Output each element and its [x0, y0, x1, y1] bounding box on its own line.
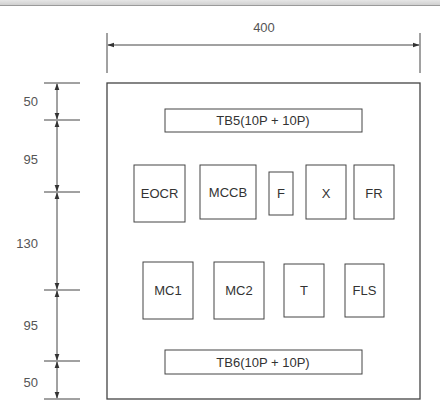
width-label: 400 — [253, 20, 275, 35]
component-t: T — [284, 264, 324, 317]
dim-label-5: 50 — [24, 375, 38, 390]
component-fr: FR — [354, 165, 394, 219]
svg-text:FR: FR — [365, 186, 382, 201]
svg-text:FLS: FLS — [353, 283, 377, 298]
dim-label-3: 130 — [16, 236, 38, 251]
svg-text:MC1: MC1 — [154, 283, 181, 298]
terminal-block-tb5: TB5(10P + 10P) — [165, 109, 362, 132]
svg-text:MC2: MC2 — [225, 283, 252, 298]
tb6-label: TB6(10P + 10P) — [216, 355, 309, 370]
panel-layout-diagram: 400 50 95 130 95 50 TB5(10P + 10P) EOCR … — [0, 0, 440, 418]
svg-text:X: X — [322, 186, 331, 201]
height-dimension-chain — [44, 83, 80, 399]
svg-text:F: F — [277, 186, 285, 201]
dim-label-1: 50 — [24, 94, 38, 109]
width-dimension: 400 — [107, 20, 420, 73]
component-fls: FLS — [345, 264, 384, 317]
component-mc2: MC2 — [214, 262, 264, 319]
component-eocr: EOCR — [134, 165, 185, 222]
svg-text:T: T — [300, 283, 308, 298]
component-mc1: MC1 — [143, 262, 193, 319]
dim-label-4: 95 — [24, 318, 38, 333]
svg-text:EOCR: EOCR — [141, 186, 179, 201]
component-mccb: MCCB — [200, 165, 256, 219]
dim-label-2: 95 — [24, 152, 38, 167]
component-f: F — [269, 172, 293, 215]
component-x: X — [306, 165, 346, 219]
tb5-label: TB5(10P + 10P) — [216, 113, 309, 128]
svg-text:MCCB: MCCB — [209, 185, 247, 200]
terminal-block-tb6: TB6(10P + 10P) — [165, 350, 362, 374]
